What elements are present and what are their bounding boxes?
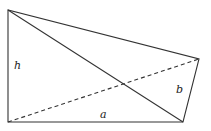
label-h: h <box>14 59 21 72</box>
quadrilateral-outline <box>8 10 199 122</box>
label-b: b <box>176 83 183 96</box>
solid-diagonal <box>8 10 183 122</box>
label-a: a <box>100 108 107 121</box>
quadrilateral-diagram: h a b <box>0 0 211 131</box>
